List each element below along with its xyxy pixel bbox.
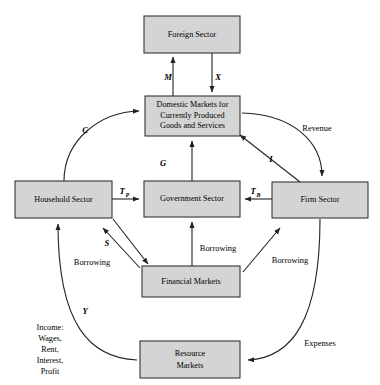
connector-borrowing-firm <box>243 228 280 272</box>
circular-flow-diagram: Foreign Sector Domestic Markets for Curr… <box>0 0 380 385</box>
box-firm-sector[interactable]: Firm Sector <box>272 182 368 218</box>
box-firm-sector-label: Firm Sector <box>301 195 340 204</box>
box-foreign-sector-label: Foreign Sector <box>168 30 217 39</box>
box-household-sector-label: Household Sector <box>34 195 93 204</box>
box-financial-markets[interactable]: Financial Markets <box>142 266 240 297</box>
flow-label-borrowing-household: Borrowing <box>74 258 111 267</box>
flow-label-taxes-personal: T P <box>119 186 129 198</box>
box-domestic-markets-label-line2: Currently Produced <box>160 111 224 120</box>
box-resource-markets-label-line1: Resource <box>175 349 206 358</box>
flow-label-consumption: C <box>82 125 88 135</box>
flow-label-revenue: Revenue <box>302 124 332 133</box>
flow-label-taxes-personal-main: T <box>119 186 125 196</box>
box-government-sector[interactable]: Government Sector <box>144 181 240 217</box>
box-government-sector-label: Government Sector <box>160 194 224 203</box>
box-financial-markets-label: Financial Markets <box>161 277 220 286</box>
flow-label-taxes-business-sub: B <box>256 192 261 198</box>
connector-consumption <box>64 111 139 181</box>
flow-label-savings: S <box>105 238 110 248</box>
flow-label-government-spending: G <box>160 158 167 168</box>
box-foreign-sector[interactable]: Foreign Sector <box>144 16 240 53</box>
box-resource-markets-label-line2: Markets <box>177 361 204 370</box>
income-breakdown-label: Income: Wages, Rent, Interest, Profit <box>37 323 64 376</box>
flow-label-borrowing-firm: Borrowing <box>272 256 309 265</box>
flow-label-taxes-business-main: T <box>250 186 256 196</box>
box-domestic-markets-label-line1: Domestic Markets for <box>157 100 229 109</box>
income-breakdown-line3: Rent, <box>41 345 59 354</box>
flow-label-exports: X <box>214 72 221 82</box>
income-breakdown-line4: Interest, <box>37 356 64 365</box>
flow-label-borrowing-government: Borrowing <box>200 244 237 253</box>
box-household-sector[interactable]: Household Sector <box>15 181 112 218</box>
connector-income <box>58 224 137 360</box>
box-domestic-markets[interactable]: Domestic Markets for Currently Produced … <box>145 96 240 136</box>
income-breakdown-line5: Profit <box>41 367 60 376</box>
flow-label-taxes-business: T B <box>250 186 260 198</box>
box-resource-markets[interactable]: Resource Markets <box>140 341 240 378</box>
flow-label-income-symbol: Y <box>82 306 88 316</box>
connector-revenue <box>242 113 322 176</box>
flow-label-investment: I <box>268 154 273 164</box>
income-breakdown-line2: Wages, <box>38 334 62 343</box>
income-breakdown-line1: Income: <box>37 323 64 332</box>
flow-label-taxes-personal-sub: P <box>126 192 130 198</box>
diagram-canvas: Foreign Sector Domestic Markets for Curr… <box>0 0 380 385</box>
flow-label-imports: M <box>163 72 172 82</box>
flow-label-expenses: Expenses <box>304 339 336 348</box>
box-domestic-markets-label-line3: Goods and Services <box>160 121 225 130</box>
